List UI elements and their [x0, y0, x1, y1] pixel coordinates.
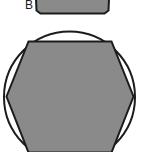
inscribed-hexagon: [7, 42, 134, 153]
panel-label-b: B: [25, 0, 33, 11]
figure-canvas: [0, 0, 144, 152]
geometry-figure: B: [0, 0, 144, 152]
panel-b-polygon: [36, 0, 110, 14]
